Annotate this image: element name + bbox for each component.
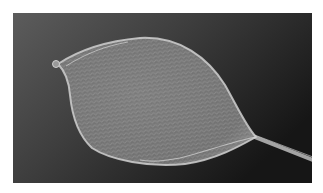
tip-knob [53, 61, 60, 68]
mesh-basket-photo [13, 13, 312, 183]
photo-frame [13, 13, 312, 183]
